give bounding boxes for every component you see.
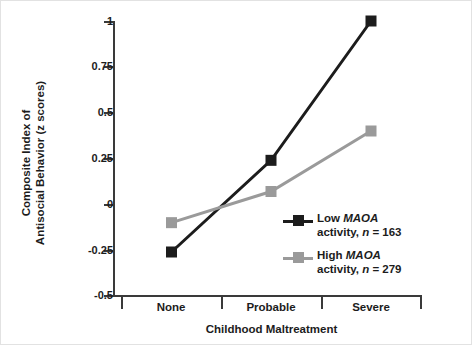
y-tick-label: 0 [57,199,113,210]
legend-text-plain: Low [317,212,343,224]
x-category-label-severe: Severe [321,301,421,313]
x-axis-line [113,295,422,297]
y-axis-title-line2: Antisocial Behavior (z scores) [33,48,47,278]
y-axis-title: Composite Index of Antisocial Behavior (… [19,48,47,278]
legend-item-low-maoa: Low MAOA activity, n = 163 [283,211,433,239]
x-axis-title: Childhood Maltreatment [121,323,422,335]
y-tick-label-wrap: 1 [41,16,113,28]
legend-text-activity: activity, [317,263,362,275]
y-tick-label: 1 [57,16,113,27]
y-tick-label-wrap: -0.5 [41,290,113,302]
chart-figure: 1 0.75 0.5 0.25 0 -0.25 -0.5 None Probab… [0,0,472,345]
chart-legend: Low MAOA activity, n = 163 High MAOA act… [283,211,433,285]
legend-text-activity: activity, [317,226,362,238]
legend-text-count: = 279 [369,263,401,275]
y-tick-label: 0.75 [57,61,113,72]
y-tick-label: 0.25 [57,153,113,164]
y-axis-line [113,21,115,297]
x-category-label-none: None [121,301,221,313]
legend-item-high-maoa: High MAOA activity, n = 279 [283,248,433,276]
y-tick-label: -0.5 [57,290,113,301]
legend-text-count: = 163 [369,226,401,238]
legend-label-high-maoa-line2: activity, n = 279 [317,262,433,276]
y-tick-label-wrap: -0.25 [41,245,113,257]
x-category-label-probable: Probable [221,301,321,313]
y-tick-label-wrap: 0.75 [41,61,113,73]
y-tick-label-wrap: 0 [41,199,113,211]
y-tick-label-wrap: 0.5 [41,107,113,119]
legend-text-gene: MAOA [343,212,378,224]
legend-swatch-high-maoa [283,251,313,265]
legend-text-plain: High [317,249,346,261]
legend-swatch-low-maoa [283,214,313,228]
legend-label-high-maoa-line1: High MAOA [317,248,433,262]
plot-area: 1 0.75 0.5 0.25 0 -0.25 -0.5 None Probab… [1,1,472,345]
y-tick-label-wrap: 0.25 [41,153,113,165]
legend-label-low-maoa-line1: Low MAOA [317,211,433,225]
y-tick-label: 0.5 [57,107,113,118]
legend-text-gene: MAOA [346,249,381,261]
y-axis-title-line1: Composite Index of [19,48,33,278]
legend-label-high-maoa: High MAOA activity, n = 279 [317,248,433,276]
legend-marker-square-low-maoa [293,215,304,226]
legend-label-low-maoa-line2: activity, n = 163 [317,225,433,239]
y-tick-label: -0.25 [57,245,113,256]
legend-label-low-maoa: Low MAOA activity, n = 163 [317,211,433,239]
legend-marker-square-high-maoa [293,252,304,263]
